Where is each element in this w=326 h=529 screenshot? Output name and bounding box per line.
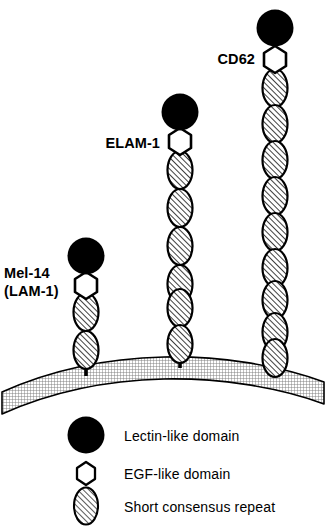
mel14-lectin-circle <box>68 238 105 275</box>
filled-circle-icon <box>68 417 105 454</box>
scr-ellipse <box>263 69 288 107</box>
cd62-label: CD62 <box>218 51 255 67</box>
scr-ellipse <box>74 331 99 369</box>
elam1-scr-group <box>168 151 193 363</box>
elam1-egf-hexagon <box>169 128 191 155</box>
scr-ellipse <box>168 151 193 189</box>
cd62-egf-hexagon <box>264 46 286 73</box>
selectin-diagram-canvas: Mel-14 (LAM-1) ELAM-1 <box>0 0 326 529</box>
mel14-egf-hexagon <box>75 272 97 299</box>
scr-ellipse <box>168 227 193 265</box>
scr-ellipse <box>168 289 193 327</box>
legend-label-egf: EGF-like domain <box>124 466 231 482</box>
cd62-scr-group <box>263 69 288 377</box>
mel14-label-line1: Mel-14 <box>4 265 50 281</box>
scr-ellipse <box>263 213 288 251</box>
elam1-lectin-circle <box>162 94 199 131</box>
elam1-label: ELAM-1 <box>105 135 160 151</box>
legend-label-lectin: Lectin-like domain <box>124 428 240 444</box>
legend-label-scr: Short consensus repeat <box>124 499 275 515</box>
scr-ellipse <box>263 141 288 179</box>
figure-root: Mel-14 (LAM-1) ELAM-1 <box>0 0 326 529</box>
scr-ellipse <box>263 105 288 143</box>
scr-ellipse <box>168 325 193 363</box>
mel14-label-line2: (LAM-1) <box>4 283 59 299</box>
scr-ellipse <box>168 189 193 227</box>
cd62-lectin-circle <box>257 10 294 47</box>
scr-ellipse <box>263 177 288 215</box>
open-hexagon-icon <box>77 462 95 485</box>
hatched-ellipse-icon <box>74 488 98 525</box>
scr-ellipse <box>263 339 288 377</box>
